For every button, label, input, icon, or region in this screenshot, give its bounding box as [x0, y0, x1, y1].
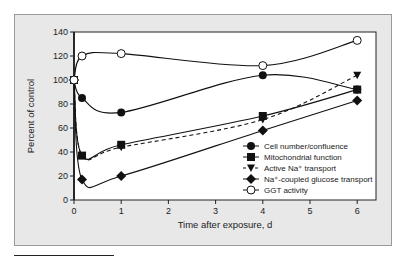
legend-label: Active Na⁺ transport — [264, 164, 337, 173]
legend-marker — [247, 186, 255, 194]
y-tick-label: 40 — [58, 147, 68, 157]
x-tick-label: 0 — [71, 206, 76, 216]
data-point-0 — [117, 108, 125, 116]
data-point-4 — [259, 62, 267, 70]
y-tick-label: 140 — [53, 27, 68, 37]
data-point-4 — [78, 52, 86, 60]
legend-marker — [247, 142, 255, 150]
x-tick-label: 1 — [119, 206, 124, 216]
data-point-4 — [353, 36, 361, 44]
x-tick-label: 3 — [213, 206, 218, 216]
line-chart: 0204060801001201400123456 Cell number/co… — [0, 0, 401, 268]
x-tick-label: 5 — [307, 206, 312, 216]
y-tick-label: 0 — [63, 195, 68, 205]
y-tick-label: 100 — [53, 75, 68, 85]
legend-label: Mitochondrial function — [264, 153, 342, 162]
x-tick-label: 6 — [355, 206, 360, 216]
data-point-4 — [117, 50, 125, 58]
data-point-0 — [78, 94, 86, 102]
x-axis-title: Time after exposure, d — [178, 219, 273, 230]
y-tick-label: 60 — [58, 123, 68, 133]
x-tick-label: 4 — [260, 206, 265, 216]
data-point-0 — [259, 71, 267, 79]
y-axis-title: Percent of control — [25, 79, 36, 153]
data-point-1 — [353, 86, 361, 94]
y-tick-label: 120 — [53, 51, 68, 61]
legend-label: Cell number/confluence — [264, 142, 349, 151]
legend-label: GGT activity — [264, 186, 308, 195]
x-tick-label: 2 — [166, 206, 171, 216]
y-tick-label: 20 — [58, 171, 68, 181]
legend-label: Na⁺-coupled glucose transport — [264, 175, 373, 184]
y-tick-label: 80 — [58, 99, 68, 109]
data-point-4 — [70, 76, 78, 84]
legend-marker — [247, 153, 255, 161]
